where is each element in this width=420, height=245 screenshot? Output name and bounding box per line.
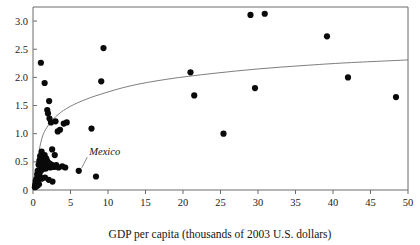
x-tick-label: 20 [178,197,189,208]
data-point [393,94,399,100]
x-tick-label: 30 [253,197,264,208]
x-tick-label: 35 [290,197,301,208]
y-tick-label: 3.0 [15,16,28,27]
data-point [100,45,106,51]
y-axis-tick-labels: 0.51.01.52.02.53.00 [15,16,28,196]
x-axis-tick-labels: 05101520253035404550 [30,197,413,208]
y-tick-label: 0.5 [15,156,28,167]
trend-curve-path [36,60,408,187]
y-tick-label: 1.0 [15,128,28,139]
data-point [62,164,68,170]
data-point [88,126,94,132]
data-point [252,85,258,91]
x-tick-label: 10 [103,197,114,208]
x-tick-label: 15 [140,197,151,208]
data-point [93,173,99,179]
data-point [345,74,351,80]
annotation-label: Mexico [88,146,120,157]
data-point [191,92,197,98]
data-point [49,178,55,184]
data-point [36,181,42,187]
data-point [76,168,82,174]
x-tick-label: 50 [403,197,414,208]
y-tick-label: 1.5 [15,100,28,111]
annotation-leader-line [82,157,88,168]
x-tick-label: 0 [30,197,35,208]
data-point [49,146,55,152]
y-tick-label-zero: 0 [23,185,28,196]
data-points [32,11,399,191]
data-point [38,60,44,66]
data-point [187,69,193,75]
data-point [324,33,330,39]
data-point [57,127,63,133]
data-point [52,152,58,158]
x-tick-label: 40 [328,197,339,208]
data-point [52,118,58,124]
data-point [42,80,48,86]
trend-curve [36,60,408,187]
data-point [64,119,70,125]
y-tick-label: 2.5 [15,44,28,55]
x-axis-title: GDP per capita (thousands of 2003 U.S. d… [109,228,332,241]
data-point [46,98,52,104]
x-tick-label: 5 [68,197,73,208]
data-point [262,11,268,17]
data-point [220,131,226,137]
y-tick-label: 2.0 [15,72,28,83]
figure-container: 05101520253035404550 0.51.01.52.02.53.00… [0,0,420,245]
data-point [98,78,104,84]
x-tick-label: 25 [215,197,226,208]
x-axis-ticks [33,190,408,194]
annotations: Mexico [82,146,120,168]
scatter-plot: 05101520253035404550 0.51.01.52.02.53.00… [0,0,420,245]
y-axis-ticks [33,21,37,162]
x-tick-label: 45 [365,197,376,208]
data-point [247,12,253,18]
